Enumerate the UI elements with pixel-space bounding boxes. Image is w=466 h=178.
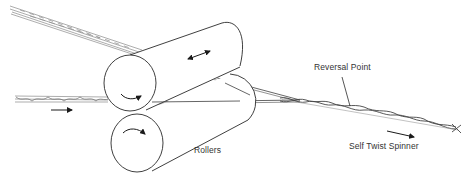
lower-input-strand [15,96,108,102]
upper-input-strand [10,6,142,56]
output-direction-arrow [387,131,414,137]
output-yarn [280,98,461,133]
rollers-label: Rollers [194,145,221,155]
self-twist-diagram [0,0,466,178]
self-twist-spinner-label: Self Twist Spinner [349,141,419,151]
reversal-point-leader [342,77,350,106]
reversal-point-label: Reversal Point [314,62,371,72]
